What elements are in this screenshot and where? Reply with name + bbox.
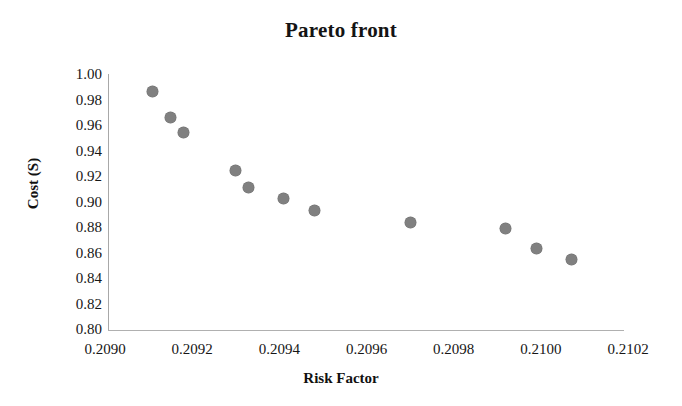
data-point <box>230 165 241 176</box>
x-axis-title: Risk Factor <box>0 370 682 387</box>
data-point <box>566 254 577 265</box>
y-axis-title: Cost (S) <box>25 139 42 229</box>
x-tick-label: 0.2090 <box>65 341 145 357</box>
data-point <box>178 127 189 138</box>
data-point <box>405 217 416 228</box>
data-point <box>278 193 289 204</box>
data-point <box>243 182 254 193</box>
x-tick-label: 0.2092 <box>152 341 232 357</box>
x-tick-label: 0.2094 <box>239 341 319 357</box>
data-point <box>165 112 176 123</box>
data-point <box>500 223 511 234</box>
data-point <box>531 243 542 254</box>
x-tick-label: 0.2098 <box>414 341 494 357</box>
data-point <box>309 205 320 216</box>
x-tick-label: 0.2102 <box>588 341 668 357</box>
x-tick-label: 0.2096 <box>327 341 407 357</box>
pareto-front-chart: Pareto front 0.800.820.840.860.880.900.9… <box>0 0 682 406</box>
data-point <box>147 86 158 97</box>
x-tick-label: 0.2100 <box>501 341 581 357</box>
plot-area <box>109 75 623 330</box>
